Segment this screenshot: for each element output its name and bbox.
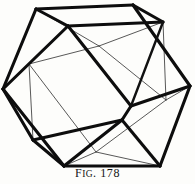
caption-suffix: . 178 [93,166,120,180]
front-edge-bl-spoke [33,140,64,166]
figure-caption: FIG. 178 [0,166,195,181]
caption-smallcaps: IG [82,169,93,179]
hidden-edge [163,22,166,100]
hidden-edge-group [3,9,190,166]
outer-edge-lower-right [160,86,190,166]
visible-edge-group [3,5,190,166]
hidden-edge [99,46,166,100]
outer-edge-upper-right [133,5,190,86]
front-edge-right-short [122,106,131,120]
front-edge-right-spoke [131,86,190,106]
front-edge-tl-spoke [36,9,68,26]
front-edge-main-diagonal [68,26,131,106]
front-edge-left-spoke [3,26,68,89]
outer-edge-upper-left [3,9,36,89]
cuboctahedron-wireframe-drawing [0,0,195,184]
figure-container: FIG. 178 [0,0,195,184]
front-edge-ll-spoke [3,89,33,140]
outer-edge-lower-left [3,89,64,166]
outer-edge-top [36,5,133,9]
